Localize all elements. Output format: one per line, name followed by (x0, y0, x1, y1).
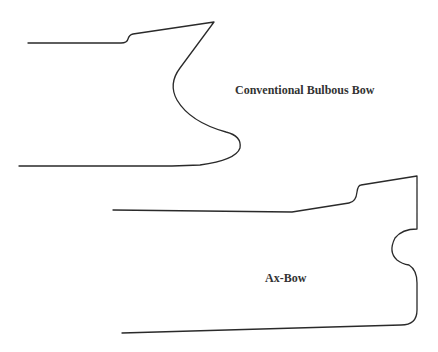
ax-bow-outline (113, 176, 417, 333)
bow-diagram (0, 0, 438, 352)
conventional-bulbous-bow-label: Conventional Bulbous Bow (235, 83, 374, 98)
conventional-bulbous-bow-outline (19, 22, 240, 166)
ax-bow-label: Ax-Bow (265, 271, 306, 286)
